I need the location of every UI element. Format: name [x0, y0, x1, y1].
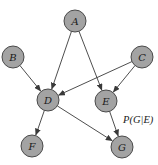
node-c: C — [131, 46, 153, 68]
conditional-probability-label: P(G|E) — [122, 114, 154, 126]
node-label: C — [138, 52, 146, 63]
edge-c-to-d — [58, 62, 132, 96]
edge-c-to-e — [113, 66, 135, 93]
edge-b-to-d — [20, 66, 41, 92]
node-e: E — [95, 90, 117, 112]
edge-a-to-d — [52, 31, 72, 89]
node-label: A — [70, 16, 78, 27]
node-label: D — [43, 95, 52, 106]
node-g: G — [111, 136, 133, 158]
node-label: G — [118, 142, 126, 153]
node-b: B — [2, 46, 24, 68]
edge-e-to-g — [110, 111, 119, 136]
node-label: B — [8, 52, 16, 63]
nodes-group: ABCDEFG — [2, 10, 153, 158]
edges-group — [20, 31, 135, 141]
node-label: F — [28, 141, 37, 152]
edge-a-to-e — [79, 31, 102, 90]
node-d: D — [37, 89, 59, 111]
node-a: A — [64, 10, 86, 32]
edge-d-to-f — [36, 110, 45, 135]
node-label: E — [101, 96, 110, 107]
node-f: F — [21, 135, 43, 157]
bayesian-network-diagram: ABCDEFG P(G|E) — [0, 0, 158, 165]
